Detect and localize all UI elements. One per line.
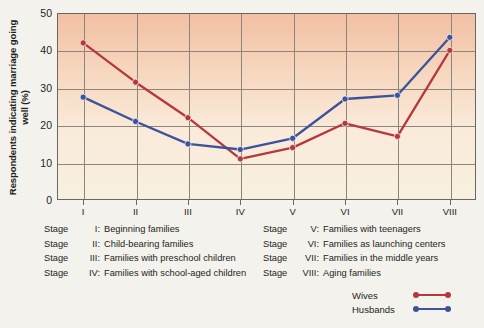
stage-caption-text: Beginning families xyxy=(104,224,179,234)
data-point-marker xyxy=(447,34,453,40)
data-point-marker xyxy=(132,118,138,124)
stage-caption-row: StageIV:Families with school-aged childr… xyxy=(44,268,246,283)
data-point-marker xyxy=(80,94,86,100)
data-point-marker xyxy=(237,146,243,152)
stage-caption-text: Aging families xyxy=(323,268,381,278)
x-axis-tick-mark xyxy=(397,200,398,205)
legend-item: Husbands xyxy=(352,302,452,316)
x-axis-tick-mark xyxy=(345,200,346,205)
stage-caption-word: Stage xyxy=(44,253,76,263)
line-chart-figure: Respondents indicating marriage going we… xyxy=(0,0,484,328)
x-axis-tick-mark xyxy=(240,200,241,205)
stage-caption-word: Stage xyxy=(44,224,76,234)
stage-caption-number: I: xyxy=(76,224,104,234)
stage-caption-row: StageVII:Families in the middle years xyxy=(263,253,445,268)
data-point-marker xyxy=(342,96,348,102)
y-axis-tick-label: 50 xyxy=(26,8,52,18)
legend-marker xyxy=(445,292,451,298)
x-axis-tick-label: I xyxy=(68,206,98,217)
legend-marker xyxy=(413,292,419,298)
stage-caption-number: VII: xyxy=(295,253,323,263)
series-line xyxy=(83,43,450,159)
stage-caption-number: V: xyxy=(295,224,323,234)
stage-caption-number: VI: xyxy=(295,239,323,249)
stage-caption-row: StageI:Beginning families xyxy=(44,224,246,239)
data-point-marker xyxy=(185,115,191,121)
stage-captions-left: StageI:Beginning familiesStageII:Child-b… xyxy=(44,224,246,282)
stage-caption-row: StageII:Child-bearing families xyxy=(44,239,246,254)
legend-swatch xyxy=(412,304,452,314)
data-point-marker xyxy=(185,141,191,147)
data-point-marker xyxy=(80,40,86,46)
x-axis-tick-label: VI xyxy=(330,206,360,217)
stage-caption-word: Stage xyxy=(263,268,295,278)
stage-caption-row: StageV:Families with teenagers xyxy=(263,224,445,239)
stage-caption-text: Families with teenagers xyxy=(323,224,421,234)
stage-caption-text: Families with preschool children xyxy=(104,253,236,263)
x-axis-tick-label: II xyxy=(121,206,151,217)
legend-marker xyxy=(413,306,419,312)
y-axis-tick-label: 20 xyxy=(26,120,52,130)
data-point-marker xyxy=(290,145,296,151)
x-axis-tick-mark xyxy=(188,200,189,205)
x-axis-tick-mark xyxy=(450,200,451,205)
data-point-marker xyxy=(342,120,348,126)
stage-caption-text: Child-bearing families xyxy=(104,239,193,249)
data-point-marker xyxy=(447,47,453,53)
data-point-marker xyxy=(394,92,400,98)
legend-line xyxy=(416,294,448,296)
data-point-marker xyxy=(132,79,138,85)
y-axis-tick-label: 40 xyxy=(26,45,52,55)
y-axis-tick-label: 10 xyxy=(26,158,52,168)
stage-caption-word: Stage xyxy=(44,268,76,278)
chart-legend: WivesHusbands xyxy=(352,288,452,316)
x-axis-tick-label: VII xyxy=(382,206,412,217)
stage-caption-text: Families with school-aged children xyxy=(104,268,246,278)
x-axis-tick-label: V xyxy=(278,206,308,217)
stage-caption-word: Stage xyxy=(263,239,295,249)
stage-caption-word: Stage xyxy=(263,253,295,263)
stage-caption-number: VIII: xyxy=(295,268,323,278)
stage-caption-text: Families in the middle years xyxy=(323,253,438,263)
data-point-marker xyxy=(237,156,243,162)
x-axis-tick-mark xyxy=(83,200,84,205)
legend-swatch xyxy=(412,290,452,300)
y-axis-tick-label: 30 xyxy=(26,83,52,93)
stage-caption-row: StageVI:Families as launching centers xyxy=(263,239,445,254)
stage-caption-word: Stage xyxy=(44,239,76,249)
legend-line xyxy=(416,308,448,310)
data-point-marker xyxy=(290,135,296,141)
stage-captions-right: StageV:Families with teenagersStageVI:Fa… xyxy=(263,224,445,282)
y-axis-tick-label: 0 xyxy=(26,195,52,205)
legend-marker xyxy=(445,306,451,312)
stage-caption-number: II: xyxy=(76,239,104,249)
stage-caption-number: III: xyxy=(76,253,104,263)
stage-caption-text: Families as launching centers xyxy=(323,239,445,249)
x-axis-tick-label: VIII xyxy=(435,206,465,217)
x-axis-tick-mark xyxy=(136,200,137,205)
stage-caption-number: IV: xyxy=(76,268,104,278)
legend-label: Husbands xyxy=(352,304,412,315)
x-axis-tick-label: IV xyxy=(225,206,255,217)
legend-item: Wives xyxy=(352,288,452,302)
legend-label: Wives xyxy=(352,290,412,301)
stage-caption-word: Stage xyxy=(263,224,295,234)
data-point-marker xyxy=(394,133,400,139)
x-axis-tick-mark xyxy=(293,200,294,205)
stage-caption-row: StageIII:Families with preschool childre… xyxy=(44,253,246,268)
x-axis-tick-label: III xyxy=(173,206,203,217)
stage-caption-row: StageVIII:Aging families xyxy=(263,268,445,283)
